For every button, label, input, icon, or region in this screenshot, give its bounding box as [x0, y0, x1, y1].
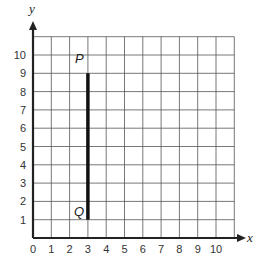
x-tick-label: 0: [30, 243, 36, 255]
x-tick-label: 6: [140, 243, 146, 255]
y-tick-label: 9: [20, 67, 26, 79]
y-tick-label: 10: [14, 49, 26, 61]
x-tick-label: 4: [103, 243, 109, 255]
tick-labels: 01234567891012345678910: [14, 49, 222, 255]
grid-lines: [33, 37, 234, 238]
y-axis-label: y: [27, 1, 35, 16]
y-axis-arrow-icon: [29, 21, 37, 30]
x-tick-label: 7: [158, 243, 164, 255]
x-tick-label: 3: [85, 243, 91, 255]
x-tick-label: 10: [210, 243, 222, 255]
axes: [29, 21, 246, 242]
y-tick-label: 6: [20, 122, 26, 134]
x-axis-label: x: [246, 230, 253, 245]
x-axis-arrow-icon: [237, 234, 246, 242]
y-tick-label: 7: [20, 104, 26, 116]
x-tick-label: 8: [176, 243, 182, 255]
x-tick-label: 9: [195, 243, 201, 255]
x-tick-label: 2: [67, 243, 73, 255]
y-tick-label: 2: [20, 195, 26, 207]
coordinate-grid: 01234567891012345678910 x y P Q: [0, 0, 270, 264]
y-tick-label: 1: [20, 214, 26, 226]
point-p-label: P: [75, 51, 84, 66]
y-tick-label: 5: [20, 141, 26, 153]
x-tick-label: 5: [121, 243, 127, 255]
y-tick-label: 4: [20, 159, 26, 171]
x-tick-label: 1: [48, 243, 54, 255]
point-q-label: Q: [74, 204, 84, 219]
y-tick-label: 3: [20, 177, 26, 189]
y-tick-label: 8: [20, 86, 26, 98]
